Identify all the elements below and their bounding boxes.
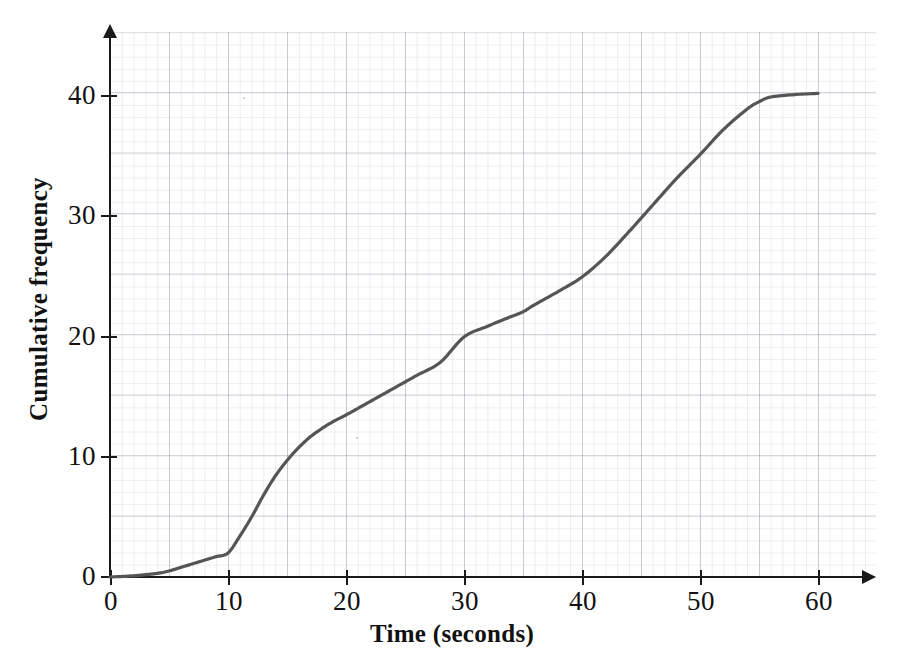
x-tick-label-20: 20: [317, 588, 377, 615]
x-tick-label-0: 0: [81, 588, 141, 615]
x-tick-label-40: 40: [553, 588, 613, 615]
y-tick-20: [101, 336, 117, 338]
x-tick-60: [818, 570, 820, 585]
x-tick-40: [582, 570, 584, 585]
paper-speck: [243, 97, 245, 99]
y-axis-title: Cumulative frequency: [25, 64, 53, 534]
x-tick-50: [700, 570, 702, 585]
paper-speck: [356, 437, 358, 439]
y-tick-0: [101, 576, 117, 578]
x-tick-0: [110, 570, 112, 585]
y-tick-label-0: 0: [36, 563, 96, 590]
x-tick-20: [346, 570, 348, 585]
x-tick-30: [464, 570, 466, 585]
x-tick-label-50: 50: [671, 588, 731, 615]
y-tick-40: [101, 95, 117, 97]
y-axis-line: [109, 32, 111, 578]
x-axis-line: [110, 576, 866, 578]
x-axis-arrow-icon: [862, 570, 876, 584]
x-tick-label-10: 10: [199, 588, 259, 615]
y-axis-arrow-icon: [103, 24, 117, 38]
x-tick-label-30: 30: [435, 588, 495, 615]
x-axis-title: Time (seconds): [0, 620, 904, 648]
chart-canvas: 0 10 20 30 40 0 10 20 30 40 50 60 Time (…: [0, 0, 904, 665]
x-tick-10: [228, 570, 230, 585]
y-tick-10: [101, 456, 117, 458]
x-tick-label-60: 60: [789, 588, 849, 615]
y-tick-30: [101, 215, 117, 217]
graph-paper-grid: [110, 32, 876, 577]
